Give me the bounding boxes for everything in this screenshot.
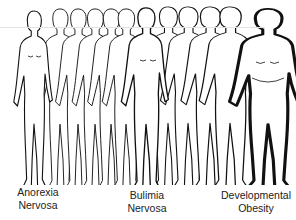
figure-1-anorexia xyxy=(14,11,53,185)
body-spectrum-illustration xyxy=(0,0,296,185)
label-line: Obesity xyxy=(216,202,296,215)
label-bulimia-nervosa: Bulimia Nervosa xyxy=(117,189,177,215)
label-line: Nervosa xyxy=(8,199,68,212)
label-line: Anorexia xyxy=(8,186,68,199)
guide-line xyxy=(0,27,265,28)
label-line: Nervosa xyxy=(117,202,177,215)
label-line: Developmental xyxy=(216,189,296,202)
label-line: Bulimia xyxy=(117,189,177,202)
label-developmental-obesity: Developmental Obesity xyxy=(216,189,296,215)
label-anorexia-nervosa: Anorexia Nervosa xyxy=(8,186,68,212)
